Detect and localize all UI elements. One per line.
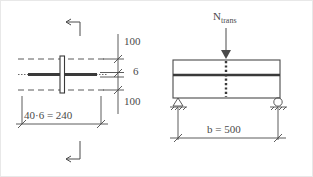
dim-label-thickness: 6	[133, 66, 139, 77]
section-arrow-bottom-icon	[66, 141, 80, 162]
load-label: Ntrans	[213, 11, 237, 25]
dim-label-top-gap: 100	[124, 36, 141, 47]
load-label-subscript: trans	[221, 16, 237, 25]
load-label-symbol: N	[213, 10, 221, 22]
load-arrow-icon	[221, 28, 231, 59]
figure-canvas: 100 6 100 40·6 = 240 b = 500 Ntrans	[0, 0, 313, 177]
span-label: b = 500	[207, 124, 241, 135]
dim-label-bottom-gap: 100	[124, 96, 141, 107]
roller-support-icon	[270, 98, 287, 110]
pinned-support-icon	[170, 98, 187, 110]
vertical-plate	[60, 56, 65, 93]
dim-label-width: 40·6 = 240	[24, 110, 72, 121]
technical-drawing	[0, 0, 313, 177]
section-arrow-top-icon	[66, 19, 80, 36]
